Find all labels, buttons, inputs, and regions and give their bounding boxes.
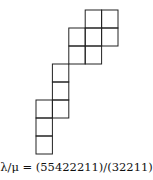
diagram-cell [69, 28, 85, 46]
diagram-cell [102, 10, 118, 28]
skew-young-diagram [0, 0, 153, 160]
diagram-cell [85, 10, 101, 28]
diagram-cell [52, 100, 68, 118]
partition-caption: λ/μ = (55422211)/(32211) [0, 160, 153, 174]
diagram-cell [102, 28, 118, 46]
diagram-cell [85, 28, 101, 46]
diagram-cell [36, 100, 52, 118]
diagram-cell [52, 82, 68, 100]
diagram-cell [85, 46, 101, 64]
diagram-cell [52, 64, 68, 82]
diagram-cell [36, 136, 52, 154]
diagram-cell [69, 46, 85, 64]
diagram-cell [36, 118, 52, 136]
